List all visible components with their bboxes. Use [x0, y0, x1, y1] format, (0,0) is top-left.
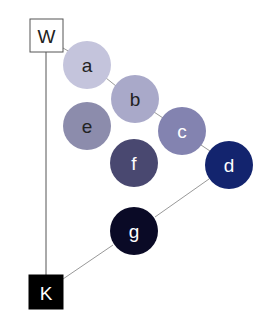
- node-label: K: [40, 283, 53, 304]
- node-label: e: [82, 116, 93, 137]
- node-w: W: [30, 19, 63, 52]
- node-e: e: [63, 102, 111, 150]
- node-b: b: [111, 75, 159, 123]
- node-label: b: [130, 89, 141, 110]
- node-k: K: [29, 275, 63, 309]
- node-a: a: [63, 41, 111, 89]
- edge-b-c: [154, 112, 163, 118]
- node-label: W: [38, 26, 56, 47]
- node-c: c: [158, 107, 206, 155]
- node-d: d: [205, 141, 253, 189]
- node-label: g: [129, 221, 140, 242]
- lattice-diagram: WK abcdefg: [0, 0, 273, 332]
- node-label: d: [224, 155, 235, 176]
- edge-g-k: [63, 245, 113, 279]
- edge-c-d: [201, 145, 210, 151]
- node-g: g: [110, 207, 158, 255]
- node-f: f: [110, 139, 158, 187]
- node-label: a: [82, 55, 93, 76]
- edge-a-b: [106, 78, 116, 86]
- edge-d-g: [155, 179, 209, 217]
- node-label: f: [131, 153, 137, 174]
- circle-nodes: abcdefg: [63, 41, 253, 255]
- node-label: c: [177, 121, 187, 142]
